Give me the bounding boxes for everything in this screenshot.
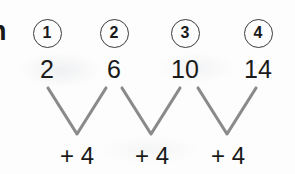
sequence-diagram-figure: n 1 2 3 4 2 6 10 14 + 4 + 4 + 4 [0,0,295,174]
index-circle-4: 4 [244,19,273,48]
index-circle-3-label: 3 [172,20,199,46]
index-circle-3: 3 [171,19,200,48]
difference-label-3: + 4 [193,142,263,170]
term-value-4: 14 [228,54,288,84]
index-circle-4-label: 4 [245,20,272,46]
connector-v-3 [198,88,256,134]
connector-v-1 [48,88,106,134]
index-circle-2: 2 [100,19,129,48]
connector-v-2 [122,88,180,134]
term-value-2: 6 [84,54,144,84]
difference-label-1: + 4 [42,142,112,170]
cut-off-letter-n: n [0,14,20,48]
index-circle-1: 1 [33,19,62,48]
term-value-1: 2 [17,54,77,84]
term-value-3: 10 [155,54,215,84]
index-circle-1-label: 1 [34,20,61,46]
difference-label-2: + 4 [117,142,187,170]
index-circle-2-label: 2 [101,20,128,46]
